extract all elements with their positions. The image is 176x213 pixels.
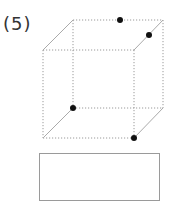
cube-slant-edges	[43, 20, 163, 138]
edge-slant-bottom-right	[134, 108, 163, 138]
point-dot	[146, 32, 152, 38]
point-dot	[117, 17, 123, 23]
edge-slant-bottom-left	[43, 108, 73, 138]
point-dot	[131, 135, 137, 141]
answer-box[interactable]	[39, 153, 160, 201]
edge-slant-top-left	[43, 20, 73, 50]
point-dot	[70, 105, 76, 111]
cube-points	[70, 17, 152, 141]
